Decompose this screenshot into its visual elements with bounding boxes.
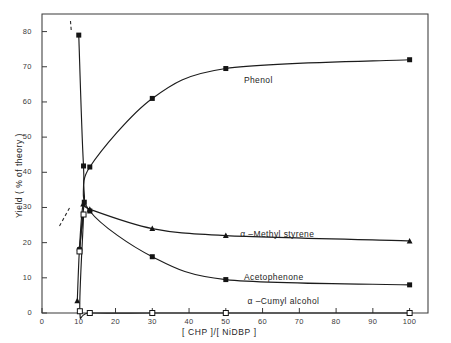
series-line (79, 35, 410, 285)
data-point-marker (407, 311, 412, 316)
data-point-marker (87, 208, 92, 213)
data-point-marker (87, 311, 92, 316)
series-line (77, 202, 409, 301)
data-point-marker (407, 282, 412, 287)
data-point-marker (87, 165, 92, 170)
x-tick-label: 40 (184, 317, 193, 326)
data-point-marker (77, 309, 82, 314)
chart-figure: Yield ( % of theory ) [ CHP ]/[ NiDBP ] … (0, 0, 451, 343)
x-tick-label: 0 (40, 317, 44, 326)
data-point-marker (223, 66, 228, 71)
x-tick-label: 60 (258, 317, 267, 326)
y-tick-label: 30 (23, 202, 32, 211)
y-axis-ticks (42, 32, 47, 313)
data-point-marker (223, 277, 228, 282)
x-tick-label: 90 (368, 317, 377, 326)
x-axis-title: [ CHP ]/[ NiDBP ] (182, 327, 257, 337)
x-tick-label: 30 (148, 317, 157, 326)
chart-plot-area (0, 0, 451, 343)
series-label: Acetophenone (244, 272, 304, 282)
y-tick-label: 50 (23, 132, 32, 141)
data-series (77, 57, 412, 252)
data-series (76, 33, 412, 288)
y-tick-label: 60 (23, 97, 32, 106)
x-tick-label: 70 (295, 317, 304, 326)
data-series (74, 201, 412, 303)
data-point-marker (407, 57, 412, 62)
x-tick-label: 80 (331, 317, 340, 326)
x-tick-label: 50 (221, 317, 230, 326)
y-tick-label: 0 (27, 308, 31, 317)
data-point-marker (223, 311, 228, 316)
data-point-marker (150, 311, 155, 316)
y-tick-label: 80 (23, 27, 32, 36)
axis-frame (42, 14, 428, 313)
data-point-marker (81, 163, 86, 168)
x-tick-label: 100 (403, 317, 416, 326)
series-label: Phenol (244, 75, 273, 85)
data-point-marker (76, 33, 81, 38)
data-point-marker (150, 254, 155, 259)
series-line (80, 60, 410, 250)
y-tick-label: 20 (23, 238, 32, 247)
data-point-marker (150, 96, 155, 101)
y-tick-label: 10 (23, 273, 32, 282)
series-label: α –Methyl styrene (240, 229, 314, 239)
y-tick-label: 40 (23, 167, 32, 176)
series-label: α –Cumyl alcohol (248, 296, 320, 306)
x-tick-label: 20 (111, 317, 120, 326)
data-point-marker (77, 249, 82, 254)
y-tick-label: 70 (23, 62, 32, 71)
x-tick-label: 10 (74, 317, 83, 326)
dashed-guide-lines (60, 20, 72, 226)
data-point-marker (81, 212, 86, 217)
